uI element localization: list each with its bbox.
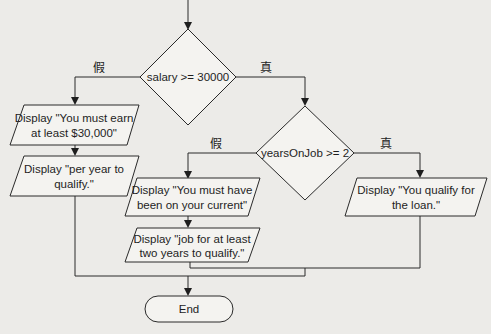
flowchart-canvas: salary >= 30000 假 真 yearsOnJob >= 2 假 真 … <box>0 0 491 334</box>
decision-salary-text: salary >= 30000 <box>147 71 229 83</box>
output-earn-30000-line1: Display "You must earn <box>15 112 134 124</box>
o1-to-o2-arrowhead <box>71 148 79 156</box>
d2-true-arrowhead <box>416 170 424 178</box>
decision-years: yearsOnJob >= 2 <box>256 106 354 200</box>
output-qualify: Display "You qualify for the loan." <box>345 178 487 216</box>
output-earn-30000-line2: at least $30,000" <box>31 127 117 139</box>
flowchart: salary >= 30000 假 真 yearsOnJob >= 2 假 真 … <box>0 0 491 334</box>
decision-years-false-label: 假 <box>210 137 222 151</box>
output-per-year-line1: Display "per year to <box>24 163 124 175</box>
decision-years-true-label: 真 <box>380 137 392 151</box>
d2-false-line <box>188 153 257 172</box>
decision-salary-false-label: 假 <box>93 61 105 75</box>
output-two-years-line2: two years to qualify." <box>140 247 245 259</box>
output-earn-30000: Display "You must earn at least $30,000" <box>10 105 139 145</box>
terminal-end-text: End <box>179 303 199 315</box>
output-must-have-line1: Display "You must have <box>132 184 253 196</box>
output-per-year: Display "per year to qualify." <box>10 156 139 196</box>
output-must-have-line2: been on your current" <box>137 199 247 211</box>
output-qualify-line1: Display "You qualify for <box>357 184 475 196</box>
d1-false-arrowhead <box>71 97 79 105</box>
output-must-have: Display "You must have been on your curr… <box>125 178 260 216</box>
d1-false-line <box>75 77 141 99</box>
terminal-end: End <box>145 296 233 322</box>
output-two-years: Display "job for at least two years to q… <box>125 228 260 262</box>
decision-years-text: yearsOnJob >= 2 <box>261 147 349 159</box>
decision-salary: salary >= 30000 <box>140 29 236 125</box>
o3-to-o4-arrowhead <box>184 220 192 228</box>
d1-true-arrowhead <box>301 98 309 106</box>
end-arrowhead <box>184 288 192 296</box>
output-two-years-line1: Display "job for at least <box>133 233 251 245</box>
output-qualify-line2: the loan." <box>392 199 440 211</box>
d2-true-line <box>353 153 420 171</box>
output-per-year-line2: qualify." <box>54 178 94 190</box>
decision-salary-true-label: 真 <box>260 61 272 75</box>
d1-true-line <box>235 77 305 99</box>
